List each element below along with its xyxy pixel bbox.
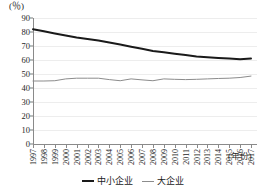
legend-label-sme: 中小企业: [97, 176, 133, 186]
chart-legend: 中小企业 大企业: [0, 176, 266, 186]
x-tick-label: 2010: [172, 149, 180, 165]
x-tick-label: 2003: [95, 149, 103, 165]
x-tick-mark: [66, 145, 67, 148]
series-lines: [33, 18, 257, 144]
x-tick-mark: [164, 145, 165, 148]
x-tick-mark: [44, 145, 45, 148]
x-tick-mark: [229, 145, 230, 148]
y-tick-label: 50: [22, 70, 31, 79]
y-tick-label: 0: [26, 140, 30, 149]
x-tick-mark: [197, 145, 198, 148]
x-tick-label: 2014: [215, 149, 223, 165]
x-tick-mark: [120, 145, 121, 148]
x-tick-mark: [186, 145, 187, 148]
x-tick-mark: [153, 145, 154, 148]
chart-figure: (％) 0102030405060708090 1997199819992000…: [0, 0, 266, 191]
x-tick-mark: [131, 145, 132, 148]
legend-label-large: 大企业: [157, 176, 184, 186]
x-tick-mark: [109, 145, 110, 148]
legend-item-large: 大企业: [142, 176, 184, 186]
x-tick-mark: [33, 145, 34, 148]
x-tick-label: 1998: [41, 149, 49, 165]
x-tick-label: 2006: [128, 149, 136, 165]
y-tick-label: 70: [22, 42, 31, 51]
x-axis-title: (年份): [228, 152, 252, 161]
x-tick-mark: [207, 145, 208, 148]
legend-line-icon-large: [142, 181, 154, 182]
x-tick-label: 2005: [117, 149, 125, 165]
series-line: [33, 76, 251, 81]
x-tick-label: 2012: [194, 149, 202, 165]
series-line: [33, 29, 251, 59]
x-tick-label: 1997: [30, 149, 38, 165]
legend-item-sme: 中小企业: [82, 176, 133, 186]
x-tick-mark: [218, 145, 219, 148]
y-axis-unit-label: (％): [9, 1, 24, 11]
y-tick-label: 20: [22, 112, 31, 121]
legend-line-icon-sme: [82, 180, 94, 182]
x-tick-mark: [142, 145, 143, 148]
x-tick-label: 2001: [74, 149, 82, 165]
x-tick-mark: [98, 145, 99, 148]
x-tick-label: 2007: [139, 149, 147, 165]
x-tick-mark: [240, 145, 241, 148]
plot-area: 0102030405060708090 19971998199920002001…: [33, 18, 257, 144]
y-tick-label: 30: [22, 98, 31, 107]
x-tick-mark: [175, 145, 176, 148]
y-tick-label: 90: [22, 14, 31, 23]
x-tick-mark: [88, 145, 89, 148]
y-tick-label: 10: [22, 126, 31, 135]
x-tick-mark: [77, 145, 78, 148]
y-tick-label: 80: [22, 28, 31, 37]
y-tick-label: 60: [22, 56, 31, 65]
x-tick-label: 2013: [204, 149, 212, 165]
x-tick-label: 1999: [52, 149, 60, 165]
x-tick-label: 2002: [85, 149, 93, 165]
x-tick-label: 2008: [150, 149, 158, 165]
y-tick-label: 40: [22, 84, 31, 93]
x-tick-label: 2009: [161, 149, 169, 165]
x-tick-mark: [55, 145, 56, 148]
x-tick-label: 2004: [106, 149, 114, 165]
x-tick-mark: [251, 145, 252, 148]
x-tick-label: 2011: [183, 149, 191, 165]
x-tick-label: 2000: [63, 149, 71, 165]
